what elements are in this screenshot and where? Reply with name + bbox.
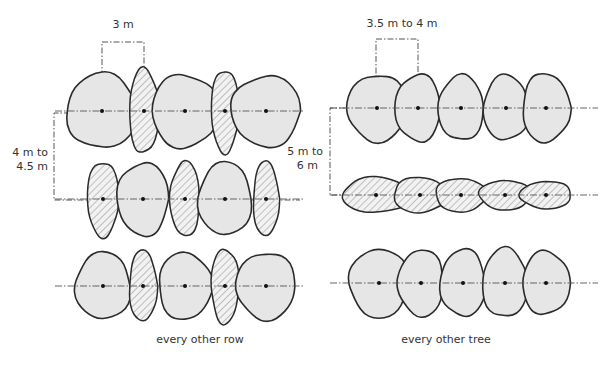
tree-trunk-dot [223,109,227,113]
panel-every-other-tree: 3.5 m to 4 m 5 m to 6 m every other tree [287,17,598,346]
tree-trunk-dot [503,281,507,285]
tree-rows [55,67,305,325]
tree-crown-retained [483,246,529,315]
tree-trunk-dot [141,197,145,201]
tree-row [55,67,305,155]
tree-trunk-dot [264,197,268,201]
tree-trunk-dot [101,197,105,201]
tree-trunk-dot [375,106,379,110]
tree-rows [330,74,598,319]
tree-trunk-dot [416,106,420,110]
tree-trunk-dot [374,193,378,197]
tree-trunk-dot [183,197,187,201]
tree-trunk-dot [418,193,422,197]
tree-row [55,249,305,325]
tree-trunk-dot [183,109,187,113]
tree-trunk-dot [459,106,463,110]
tree-trunk-dot [377,281,381,285]
caption-every-other-row: every other row [156,333,243,346]
tree-row [55,160,305,238]
tree-trunk-dot [142,109,146,113]
vertical-dimension-label-line2: 6 m [297,159,318,172]
tree-row [330,74,598,144]
tree-trunk-dot [419,281,423,285]
tree-trunk-dot [183,284,187,288]
tree-trunk-dot [544,281,548,285]
tree-trunk-dot [101,284,105,288]
tree-row [330,246,598,318]
vertical-dimension-label-line1: 4 m to [12,146,48,159]
tree-trunk-dot [264,109,268,113]
tree-trunk-dot [100,109,104,113]
caption-every-other-tree: every other tree [401,333,491,346]
tree-row [330,176,598,213]
thinning-diagram: 3 m 4 m to 4.5 m every other row 3.5 m t… [0,0,615,367]
vertical-dimension-bracket [330,108,345,195]
tree-trunk-dot [223,284,227,288]
tree-trunk-dot [503,193,507,197]
tree-trunk-dot [459,193,463,197]
tree-trunk-dot [264,284,268,288]
vertical-dimension-label-line1: 5 m to [287,145,323,158]
tree-trunk-dot [504,106,508,110]
tree-trunk-dot [141,284,145,288]
tree-trunk-dot [544,106,548,110]
tree-trunk-dot [223,197,227,201]
tree-trunk-dot [544,193,548,197]
tree-crown-removed [87,164,119,239]
horizontal-dimension-label: 3.5 m to 4 m [367,17,438,30]
vertical-dimension-label-line2: 4.5 m [16,160,48,173]
panel-every-other-row: 3 m 4 m to 4.5 m every other row [12,18,305,346]
tree-trunk-dot [461,281,465,285]
horizontal-dimension-label: 3 m [112,18,133,31]
